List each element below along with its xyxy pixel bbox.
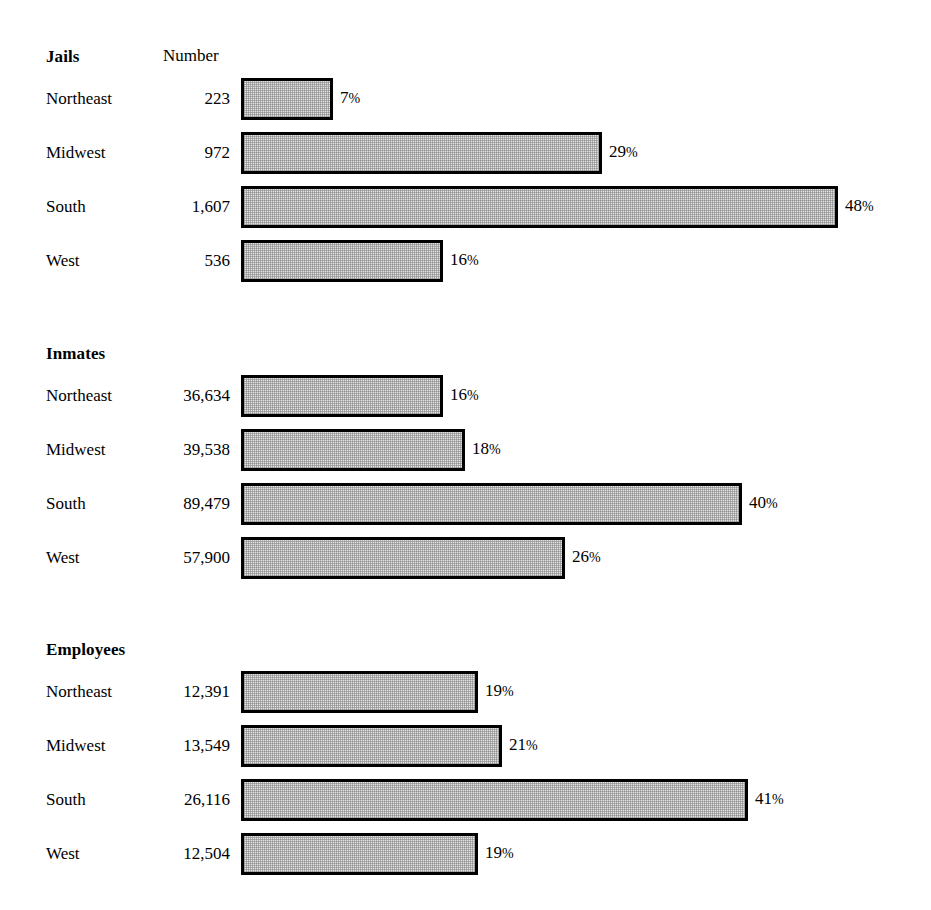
bar-percent-value: 19	[485, 843, 502, 862]
percent-sign: %	[467, 253, 479, 268]
percent-sign: %	[467, 388, 479, 403]
bar-percent-value: 16	[450, 385, 467, 404]
row-value-number: 57,900	[120, 548, 230, 567]
row-value-number: 972	[120, 143, 230, 162]
bar-jails-west	[241, 240, 443, 282]
percent-sign: %	[489, 442, 501, 457]
panel-title-inmates: Inmates	[46, 345, 105, 362]
bar-percent-label: 26%	[572, 547, 601, 568]
bar-percent-label: 7%	[340, 88, 360, 109]
percent-sign: %	[502, 684, 514, 699]
row-value-number: 39,538	[120, 440, 230, 459]
row-label-region: West	[46, 251, 80, 270]
bar-employees-west	[241, 833, 478, 875]
chart-row: South 89,479 40%	[0, 483, 931, 525]
row-label-region: South	[46, 197, 86, 216]
bar-percent-label: 16%	[450, 385, 479, 406]
bar-percent-value: 29	[609, 142, 626, 161]
row-label-region: Midwest	[46, 143, 106, 162]
chart-row: Northeast 12,391 19%	[0, 671, 931, 713]
row-value-number: 1,607	[120, 197, 230, 216]
chart-row: Midwest 972 29%	[0, 132, 931, 174]
percent-sign: %	[626, 145, 638, 160]
bar-jails-northeast	[241, 78, 333, 120]
bar-percent-value: 40	[749, 493, 766, 512]
row-value-number: 26,116	[120, 790, 230, 809]
bar-percent-label: 19%	[485, 681, 514, 702]
bar-inmates-south	[241, 483, 742, 525]
percent-sign: %	[589, 550, 601, 565]
row-label-region: Midwest	[46, 736, 106, 755]
column-header-number: Number	[163, 47, 219, 64]
row-value-number: 536	[120, 251, 230, 270]
panel-title-employees: Employees	[46, 641, 125, 658]
bar-jails-south	[241, 186, 838, 228]
bar-inmates-midwest	[241, 429, 465, 471]
chart-row: West 12,504 19%	[0, 833, 931, 875]
row-label-region: Northeast	[46, 89, 112, 108]
chart-row: Midwest 39,538 18%	[0, 429, 931, 471]
chart-row: South 26,116 41%	[0, 779, 931, 821]
bar-percent-value: 7	[340, 88, 349, 107]
bar-percent-label: 29%	[609, 142, 638, 163]
row-value-number: 12,391	[120, 682, 230, 701]
bar-percent-label: 16%	[450, 250, 479, 271]
percent-sign: %	[862, 199, 874, 214]
percent-sign: %	[502, 846, 514, 861]
chart-figure: Jails Number Northeast 223 7% Midwest 97…	[0, 0, 931, 910]
percent-sign: %	[349, 91, 361, 106]
percent-sign: %	[772, 792, 784, 807]
bar-percent-label: 19%	[485, 843, 514, 864]
row-label-region: South	[46, 494, 86, 513]
row-label-region: West	[46, 548, 80, 567]
bar-percent-value: 21	[509, 735, 526, 754]
bar-percent-label: 18%	[472, 439, 501, 460]
bar-percent-label: 40%	[749, 493, 778, 514]
chart-row: South 1,607 48%	[0, 186, 931, 228]
bar-percent-value: 16	[450, 250, 467, 269]
bar-percent-label: 41%	[755, 789, 784, 810]
bar-percent-value: 18	[472, 439, 489, 458]
row-value-number: 223	[120, 89, 230, 108]
chart-row: Northeast 36,634 16%	[0, 375, 931, 417]
percent-sign: %	[526, 738, 538, 753]
row-value-number: 89,479	[120, 494, 230, 513]
bar-percent-label: 48%	[845, 196, 874, 217]
bar-percent-label: 21%	[509, 735, 538, 756]
bar-inmates-west	[241, 537, 565, 579]
row-label-region: Northeast	[46, 682, 112, 701]
bar-percent-value: 41	[755, 789, 772, 808]
chart-row: West 536 16%	[0, 240, 931, 282]
panel-title-jails: Jails	[46, 48, 80, 65]
bar-percent-value: 19	[485, 681, 502, 700]
row-label-region: West	[46, 844, 80, 863]
row-value-number: 13,549	[120, 736, 230, 755]
row-label-region: Midwest	[46, 440, 106, 459]
bar-employees-south	[241, 779, 748, 821]
chart-row: Northeast 223 7%	[0, 78, 931, 120]
chart-row: Midwest 13,549 21%	[0, 725, 931, 767]
bar-inmates-northeast	[241, 375, 443, 417]
percent-sign: %	[766, 496, 778, 511]
row-label-region: Northeast	[46, 386, 112, 405]
chart-row: West 57,900 26%	[0, 537, 931, 579]
row-value-number: 12,504	[120, 844, 230, 863]
bar-percent-value: 48	[845, 196, 862, 215]
row-value-number: 36,634	[120, 386, 230, 405]
bar-employees-northeast	[241, 671, 478, 713]
bar-percent-value: 26	[572, 547, 589, 566]
bar-employees-midwest	[241, 725, 502, 767]
bar-jails-midwest	[241, 132, 602, 174]
row-label-region: South	[46, 790, 86, 809]
